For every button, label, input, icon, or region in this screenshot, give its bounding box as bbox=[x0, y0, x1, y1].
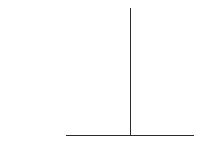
horizontal-base-line bbox=[66, 135, 194, 136]
vertical-line bbox=[130, 8, 131, 135]
diagram-canvas bbox=[0, 0, 203, 143]
